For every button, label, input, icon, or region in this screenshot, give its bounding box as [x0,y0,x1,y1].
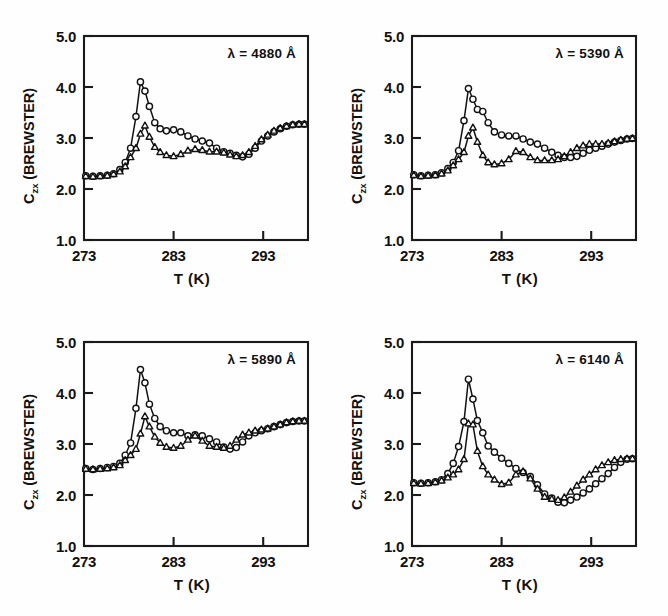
data-point-circle [163,128,169,134]
y-tick-label: 3.0 [56,436,76,453]
data-point-circle [499,132,505,138]
y-tick-label: 4.0 [384,79,404,96]
data-point-circle [586,147,592,153]
data-point-circle [527,139,533,145]
data-point-triangle [192,146,199,152]
data-point-triangle [455,466,462,472]
data-point-triangle [470,124,477,130]
data-point-triangle [534,157,541,163]
y-axis-title: Czx (BREWSTER) [21,88,40,204]
data-point-circle [574,494,580,500]
panel-5890: 1.02.03.04.05.0273283293T (K)Czx (BREWST… [12,312,322,612]
x-tick-label: 293 [251,247,275,264]
y-tick-label: 2.0 [56,487,76,504]
data-point-circle [146,103,152,109]
x-tick-label: 283 [162,553,186,570]
data-point-circle [491,449,497,455]
data-point-triangle [567,149,574,155]
data-point-circle [171,430,177,436]
data-point-triangle [142,413,149,419]
data-point-circle [163,428,169,434]
data-point-triangle [461,456,468,462]
x-tick-label: 273 [72,247,96,264]
data-point-circle [574,153,580,159]
data-point-circle [593,481,599,487]
data-point-triangle [611,138,618,144]
figure-container: 1.02.03.04.05.0273283293T (K)Czx (BREWST… [0,0,668,616]
data-point-circle [506,133,512,139]
wavelength-annotation: λ = 5390 Å [556,46,624,61]
x-tick-label: 293 [579,553,603,570]
data-point-circle [480,108,486,114]
data-point-triangle [574,145,581,151]
x-tick-label: 273 [400,247,424,264]
series-line-circles [414,379,633,502]
data-point-circle [450,460,456,466]
x-tick-label: 273 [72,553,96,570]
data-point-triangle [206,148,213,154]
data-point-triangle [163,152,170,158]
data-point-circle [470,96,476,102]
data-point-triangle [177,151,184,157]
y-axis-title-text: Czx (BREWSTER) [21,394,40,510]
data-point-triangle [498,160,505,166]
x-tick-label: 283 [490,247,514,264]
data-point-triangle [617,456,624,462]
data-point-triangle [137,430,144,436]
y-axis-title-text: Czx (BREWSTER) [21,88,40,204]
panel-4880-svg: 1.02.03.04.05.0273283293T (K)Czx (BREWST… [12,6,322,306]
data-point-triangle [206,442,213,448]
data-point-triangle [185,147,192,153]
series-line-triangles [414,424,633,501]
data-point-circle [480,430,486,436]
data-point-circle [513,133,519,139]
data-point-triangle [258,136,265,142]
data-point-triangle [580,142,587,148]
y-tick-label: 5.0 [56,28,76,45]
data-point-triangle [199,147,206,153]
y-tick-label: 5.0 [56,334,76,351]
data-point-triangle [592,141,599,147]
data-point-triangle [142,122,149,128]
y-tick-label: 1.0 [384,538,404,555]
data-point-circle [206,436,212,442]
data-point-circle [178,129,184,135]
data-point-triangle [271,127,278,133]
series-line-circles [414,89,633,176]
y-tick-label: 2.0 [384,487,404,504]
data-point-circle [137,79,143,85]
data-point-circle [206,140,212,146]
data-point-circle [506,460,512,466]
data-point-triangle [541,157,548,163]
data-point-circle [520,136,526,142]
data-point-triangle [264,131,271,137]
data-point-circle [152,120,158,126]
y-tick-label: 1.0 [56,232,76,249]
data-point-circle [567,497,573,503]
data-point-circle [142,88,148,94]
data-point-circle [465,376,471,382]
data-point-triangle [246,429,253,435]
data-point-circle [185,133,191,139]
data-point-circle [455,443,461,449]
y-tick-label: 5.0 [384,334,404,351]
data-point-circle [470,396,476,402]
data-point-triangle [277,125,284,131]
x-tick-label: 293 [251,553,275,570]
data-point-circle [474,417,480,423]
x-tick-label: 283 [490,553,514,570]
data-point-circle [549,149,555,155]
x-axis-title: T (K) [502,576,539,593]
data-point-circle [499,455,505,461]
y-axis-title: Czx (BREWSTER) [21,394,40,510]
data-point-triangle [170,153,177,159]
x-axis-title: T (K) [502,270,539,287]
data-point-triangle [605,459,612,465]
plot-frame [412,342,636,546]
data-point-triangle [520,149,527,155]
data-point-circle [146,401,152,407]
data-point-triangle [146,133,153,139]
panel-4880: 1.02.03.04.05.0273283293T (K)Czx (BREWST… [12,6,322,306]
data-point-triangle [605,140,612,146]
data-point-triangle [513,471,520,477]
